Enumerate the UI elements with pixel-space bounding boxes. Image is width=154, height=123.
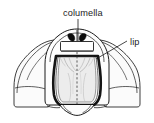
label-columella: columella: [63, 8, 103, 18]
parietal-callus-band: [61, 42, 94, 52]
figure-container: columella lip: [0, 0, 154, 123]
label-lip: lip: [130, 37, 140, 47]
parietal-shield: [61, 42, 94, 52]
shell-diagram-svg: columella lip: [0, 0, 154, 123]
